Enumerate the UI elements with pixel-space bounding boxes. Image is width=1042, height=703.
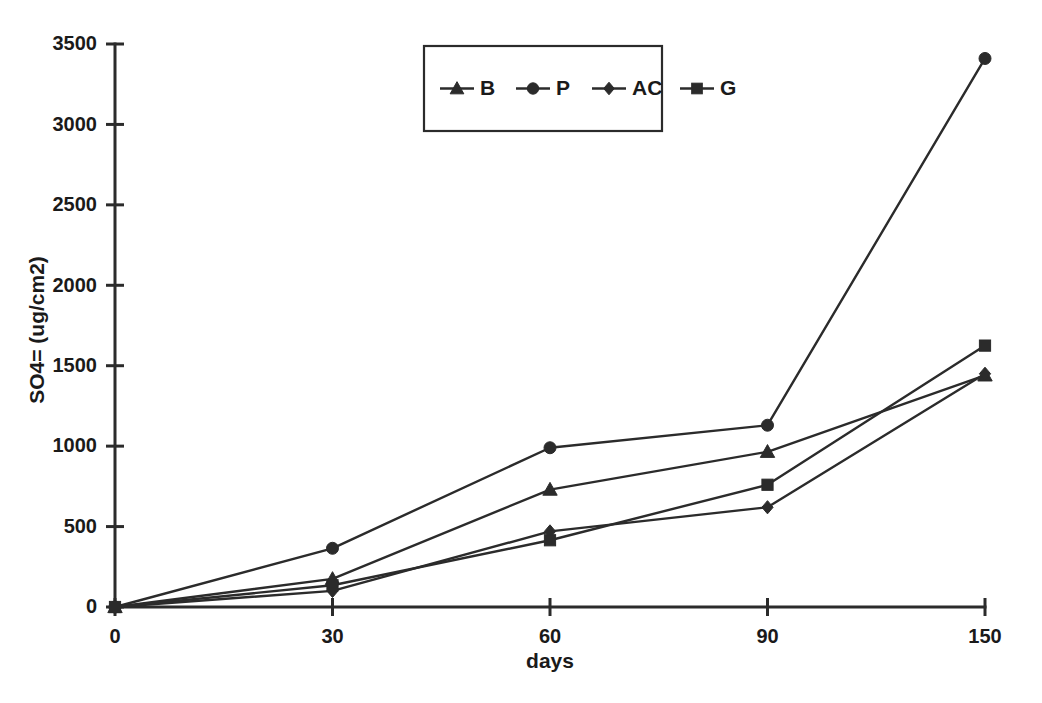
marker-square	[979, 340, 990, 351]
chart-legend: BPACG	[424, 46, 736, 131]
marker-square	[109, 601, 120, 612]
y-axis-tick-label: 1000	[53, 434, 98, 456]
legend-label-g: G	[720, 76, 736, 99]
x-axis-tick-label: 30	[321, 625, 343, 647]
x-axis-title: days	[526, 649, 574, 672]
marker-square	[544, 535, 555, 546]
legend-label-p: P	[556, 76, 570, 99]
series-line-g	[115, 346, 985, 607]
y-axis-tick-label: 3000	[53, 113, 98, 135]
y-axis-tick-label: 500	[64, 515, 97, 537]
x-axis: 0306090150	[109, 598, 1001, 647]
y-axis-tick-label: 2000	[53, 274, 98, 296]
marker-circle	[527, 83, 538, 94]
series-layer	[108, 52, 992, 613]
y-axis-tick-label: 1500	[53, 354, 98, 376]
chart-container: 0500100015002000250030003500 0306090150 …	[0, 0, 1042, 703]
marker-circle	[979, 52, 991, 64]
y-axis-title: SO4= (ug/cm2)	[25, 256, 48, 404]
x-axis-tick-label: 150	[968, 625, 1001, 647]
x-axis-tick-label: 60	[539, 625, 561, 647]
y-axis: 0500100015002000250030003500	[53, 32, 125, 617]
marker-circle	[762, 419, 774, 431]
y-axis-tick-label: 0	[86, 595, 97, 617]
line-chart: 0500100015002000250030003500 0306090150 …	[0, 0, 1042, 703]
legend-item-g[interactable]: G	[680, 76, 736, 99]
x-axis-tick-label: 0	[109, 625, 120, 647]
marker-square	[762, 479, 773, 490]
legend-label-ac: AC	[632, 76, 662, 99]
marker-square	[692, 83, 703, 94]
legend-label-b: B	[480, 76, 495, 99]
marker-diamond	[762, 501, 773, 514]
y-axis-tick-label: 3500	[53, 32, 98, 54]
marker-square	[327, 580, 338, 591]
series-b	[108, 368, 992, 612]
marker-circle	[544, 442, 556, 454]
x-axis-tick-label: 90	[756, 625, 778, 647]
y-axis-tick-label: 2500	[53, 193, 98, 215]
marker-circle	[327, 542, 339, 554]
